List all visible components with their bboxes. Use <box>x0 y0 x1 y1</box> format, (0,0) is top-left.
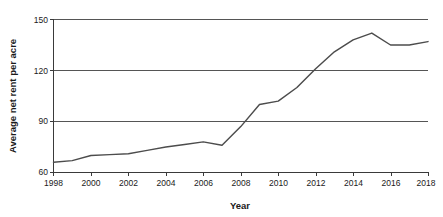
x-tick-label-2004: 2004 <box>157 178 176 188</box>
x-tick-label-2000: 2000 <box>82 178 101 188</box>
x-tick-label-2012: 2012 <box>307 178 326 188</box>
chart-figure: Average net rent per acre 150 120 90 60 <box>0 0 443 217</box>
x-tick-label-2008: 2008 <box>232 178 251 188</box>
y-axis-title: Average net rent per acre <box>7 39 18 153</box>
x-tick-label-2018: 2018 <box>417 178 436 188</box>
y-tick-label-90: 90 <box>39 116 49 126</box>
line-chart: Average net rent per acre 150 120 90 60 <box>0 0 443 217</box>
x-tick-label-2006: 2006 <box>194 178 213 188</box>
x-tick-label-2016: 2016 <box>382 178 401 188</box>
y-axis-tick-marks <box>50 20 53 173</box>
x-tick-label-2010: 2010 <box>269 178 288 188</box>
y-tick-label-60: 60 <box>39 167 49 177</box>
x-axis-tick-labels: 1998 2000 2002 2004 2006 2008 2010 2012 … <box>44 178 436 188</box>
x-axis-title: Year <box>230 200 250 211</box>
y-tick-label-150: 150 <box>34 15 48 25</box>
x-tick-label-1998: 1998 <box>44 178 63 188</box>
data-series-line <box>54 33 429 162</box>
x-tick-label-2014: 2014 <box>344 178 363 188</box>
x-tick-label-2002: 2002 <box>119 178 138 188</box>
gridlines <box>53 20 428 122</box>
y-axis-tick-labels: 150 120 90 60 <box>34 15 48 177</box>
y-tick-label-120: 120 <box>34 66 48 76</box>
